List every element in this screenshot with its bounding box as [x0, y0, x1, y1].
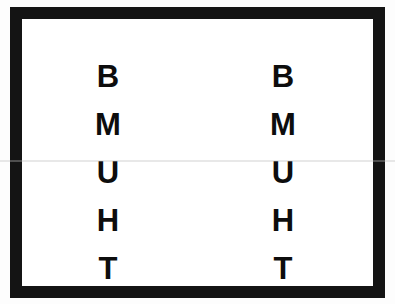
- optotype-letter: T: [78, 245, 138, 293]
- card-white-field: B M U H T B M U H T: [22, 19, 373, 286]
- optotype-letter: B: [253, 53, 313, 101]
- optotype-letter: B: [78, 53, 138, 101]
- letter-columns: B M U H T B M U H T: [22, 19, 373, 286]
- optotype-letter: H: [253, 197, 313, 245]
- card-canvas: B M U H T B M U H T: [0, 0, 395, 304]
- optotype-letter: U: [78, 149, 138, 197]
- left-letter-column: B M U H T: [78, 53, 138, 293]
- card-frame: B M U H T B M U H T: [10, 7, 385, 298]
- right-letter-column: B M U H T: [253, 53, 313, 293]
- optotype-letter: M: [78, 101, 138, 149]
- optotype-letter: T: [253, 245, 313, 293]
- optotype-letter: U: [253, 149, 313, 197]
- optotype-letter: H: [78, 197, 138, 245]
- optotype-letter: M: [253, 101, 313, 149]
